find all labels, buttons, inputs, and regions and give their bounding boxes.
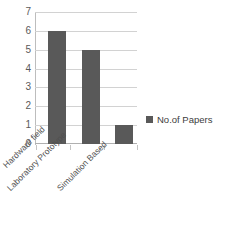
legend-swatch-icon [146, 116, 153, 123]
bar-chart: 7 6 5 4 3 2 1 0 Hardware field Laborator… [0, 0, 233, 240]
y-axis-tick-label: 4 [1, 64, 31, 74]
legend-label: No.of Papers [157, 114, 212, 125]
bar-simulation-based[interactable] [115, 125, 133, 144]
y-axis-tick-label: 6 [1, 26, 31, 36]
plot-area [35, 12, 137, 144]
x-axis-tick [70, 145, 71, 150]
y-axis-tick-labels: 7 6 5 4 3 2 1 0 [0, 12, 31, 144]
legend: No.of Papers [146, 114, 212, 125]
y-axis-tick-label: 2 [1, 101, 31, 111]
bar-laboratory-prototype[interactable] [82, 50, 100, 144]
y-axis-tick-label: 5 [1, 45, 31, 55]
y-axis-tick-label: 7 [1, 7, 31, 17]
x-axis-tick [36, 145, 37, 150]
y-axis-tick-label: 3 [1, 82, 31, 92]
bars-layer [35, 12, 137, 144]
x-axis-label-simulation-based: Simulation Based [55, 139, 109, 193]
y-axis-tick-label: 1 [1, 120, 31, 130]
x-axis-tick [137, 145, 138, 150]
bar-hardware-field[interactable] [48, 31, 66, 144]
